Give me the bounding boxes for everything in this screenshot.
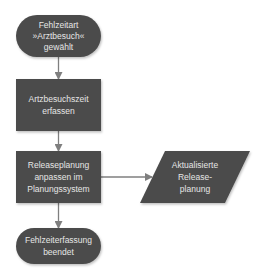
node-start-line-2: »Arztbesuch« bbox=[33, 31, 85, 41]
node-start-terminator: Fehlzeitart »Arztbesuch« gewählt bbox=[16, 15, 101, 57]
node-end-terminator: Fehlzeiterfassung beendet bbox=[16, 228, 101, 264]
node-adjust-line-1: Releaseplanung bbox=[28, 160, 90, 170]
node-end-line-2: beendet bbox=[43, 247, 74, 257]
node-start-line-3: gewählt bbox=[44, 42, 74, 52]
node-end-line-1: Fehlzeiterfassung bbox=[25, 235, 92, 245]
node-start-line-1: Fehlzeitart bbox=[39, 20, 79, 30]
node-adjust-line-2: anpassen im bbox=[34, 172, 82, 182]
flowchart: Fehlzeitart »Arztbesuch« gewählt Artzbes… bbox=[0, 0, 262, 280]
node-capture-line-2: erfassen bbox=[42, 106, 75, 116]
node-output-line-1: Aktualisierte bbox=[172, 160, 219, 170]
node-adjust-line-3: Planungssystem bbox=[27, 184, 89, 194]
node-capture-process: Artzbesuchszeit erfassen bbox=[16, 79, 101, 131]
node-output-data: Aktualisierte Release- planung bbox=[140, 151, 250, 203]
node-output-line-2: Release- bbox=[178, 172, 212, 182]
node-output-line-3: planung bbox=[180, 184, 211, 194]
node-capture-line-1: Artzbesuchszeit bbox=[29, 94, 90, 104]
node-adjust-process: Releaseplanung anpassen im Planungssyste… bbox=[16, 151, 101, 203]
